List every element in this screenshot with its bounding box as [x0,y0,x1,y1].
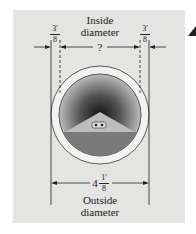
outside-label-line2: diameter [70,206,130,218]
left-wall-unit: ′ [56,24,58,33]
outside-fraction: 1′ 8 [99,174,109,193]
creature-eyes [92,122,106,128]
outside-frac-unit: ′ [105,173,107,182]
inside-diameter-value: ? [94,41,106,53]
outside-frac-den: 8 [102,184,106,193]
inside-label-line2: diameter [70,26,130,38]
triangle-marker-icon [188,26,196,36]
outside-whole: 4 [91,177,99,189]
right-wall-den: 8 [143,35,147,44]
left-wall-thickness: 3′ 8 [50,25,60,44]
outside-diameter-label: Outside diameter [70,194,130,218]
right-wall-thickness: 3′ 8 [140,25,150,44]
outside-label-line1: Outside [70,194,130,206]
inside-label-line1: Inside [70,14,130,26]
left-wall-den: 8 [53,35,57,44]
inside-diameter-label: Inside diameter [70,14,130,38]
right-wall-unit: ′ [146,24,148,33]
